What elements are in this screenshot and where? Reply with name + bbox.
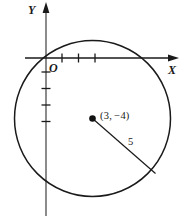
y-axis-label: Y (28, 4, 35, 16)
radius-length-label: 5 (128, 137, 133, 148)
origin-label: O (49, 62, 58, 74)
radius-segment (93, 119, 156, 174)
y-axis-arrow-icon (43, 2, 50, 13)
x-axis-arrow-icon (168, 55, 179, 62)
center-point-marker (89, 115, 96, 122)
circle-diagram-canvas (0, 0, 186, 217)
x-axis-label: X (168, 64, 176, 76)
center-point-label: (3, −4) (100, 111, 130, 122)
coordinate-plane-figure: Y X O (3, −4) 5 (0, 0, 186, 217)
